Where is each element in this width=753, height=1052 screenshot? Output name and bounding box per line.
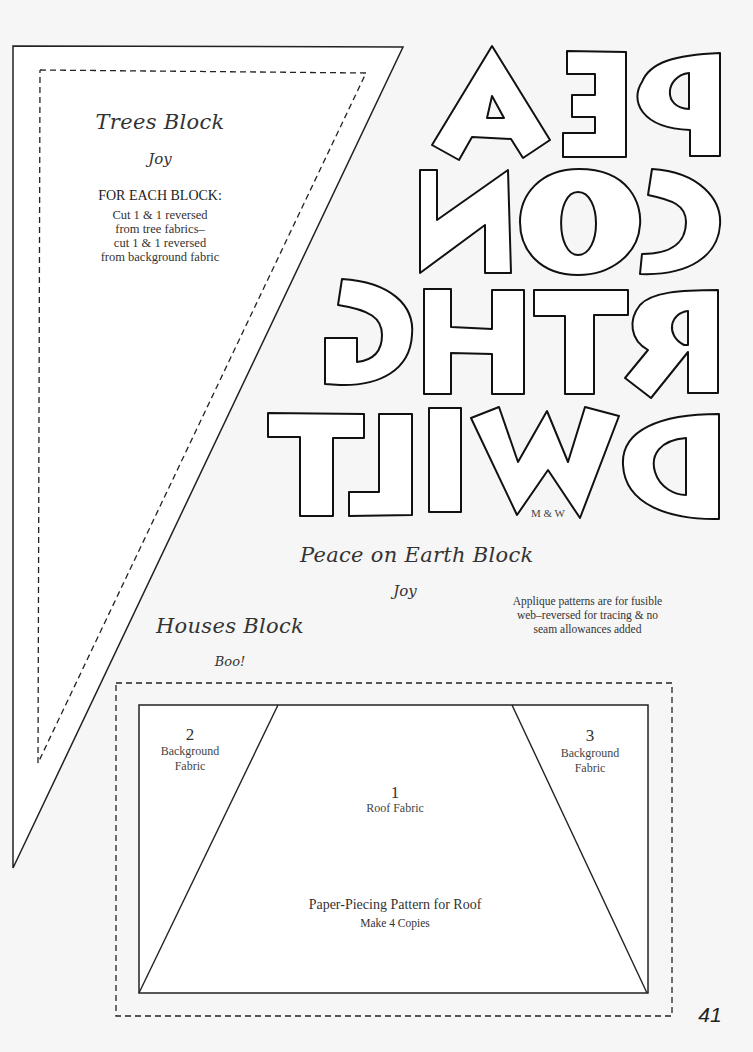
piece-2-label: Fabric <box>145 759 235 773</box>
trees-instruction-line: from tree fabrics– <box>60 222 260 236</box>
trees-block-title: Trees Block <box>90 110 230 134</box>
applique-note-line: seam allowances added <box>500 622 675 636</box>
piece-1-number: 1 <box>375 783 415 803</box>
trees-block-designer: Joy <box>120 150 200 168</box>
letter-a <box>432 46 550 160</box>
piece-3-label: Background <box>545 746 635 760</box>
pattern-note: Make 4 Copies <box>320 917 470 929</box>
trees-instruction-line: cut 1 & 1 reversed <box>60 236 260 250</box>
piece-2-label: Background <box>145 744 235 758</box>
piece-3-number: 3 <box>570 726 610 746</box>
letter-g-reversed <box>325 279 412 385</box>
letter-w <box>471 407 619 518</box>
trees-instruction-line: from background fabric <box>60 250 260 264</box>
piece-1-label: Roof Fabric <box>345 801 445 815</box>
letter-n-reversed <box>420 170 511 273</box>
applique-note-line: web–reversed for tracing & no <box>500 608 675 622</box>
letter-p-reversed <box>637 53 720 156</box>
letter-c-reversed <box>640 169 720 274</box>
pattern-artwork <box>0 0 753 1052</box>
letter-d-reversed <box>623 414 719 519</box>
letter-t <box>534 290 628 394</box>
letter-i <box>429 408 461 512</box>
page-number: 41 <box>690 1003 730 1027</box>
letter-r-reversed <box>625 290 718 398</box>
applique-note-line: Applique patterns are for fusible <box>500 594 675 608</box>
letter-h <box>424 289 524 394</box>
peace-on-earth-designer: Joy <box>370 582 440 600</box>
letter-o <box>520 169 640 275</box>
houses-block-title: Houses Block <box>155 614 305 638</box>
piece-2-number: 2 <box>170 725 210 745</box>
houses-block-designer: Boo! <box>200 654 260 669</box>
trees-instructions-heading: FOR EACH BLOCK: <box>60 188 260 204</box>
pattern-title: Paper-Piecing Pattern for Roof <box>270 897 520 913</box>
peace-on-earth-title: Peace on Earth Block <box>300 543 515 567</box>
letters-credit: M & W <box>518 507 578 519</box>
piece-3-label: Fabric <box>545 761 635 775</box>
trees-instruction-line: Cut 1 & 1 reversed <box>60 208 260 222</box>
letter-e-reversed <box>563 51 626 157</box>
